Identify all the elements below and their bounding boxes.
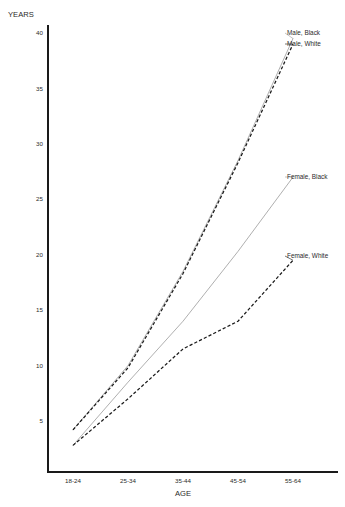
chart-container: 510152025303540 18-2425-3435-4445-5455-6… — [0, 0, 345, 507]
y-axis-ticks: 510152025303540 — [36, 29, 43, 424]
data-series — [73, 39, 293, 446]
x-tick-label: 55-64 — [285, 477, 301, 484]
x-tick-label: 45-54 — [230, 477, 246, 484]
y-tick-label: 30 — [36, 140, 43, 147]
x-tick-label: 25-34 — [120, 477, 136, 484]
y-tick-label: 40 — [36, 29, 43, 36]
x-tick-label: 35-44 — [175, 477, 191, 484]
y-tick-label: 20 — [36, 251, 43, 258]
series-line-male-white — [73, 44, 293, 430]
series-label: Male, Black — [287, 29, 321, 36]
y-tick-label: 15 — [36, 306, 43, 313]
line-chart: 510152025303540 18-2425-3435-4445-5455-6… — [0, 0, 345, 507]
x-axis-title: AGE — [175, 489, 191, 498]
series-label: Male, White — [287, 40, 321, 47]
series-line-female-white — [73, 260, 293, 445]
y-axis-title: YEARS — [8, 10, 34, 19]
axis-lines — [48, 25, 338, 472]
x-axis-ticks: 18-2425-3435-4445-5455-64 — [65, 477, 301, 484]
y-tick-label: 25 — [36, 195, 43, 202]
y-tick-label: 10 — [36, 362, 43, 369]
axes — [48, 25, 338, 472]
y-tick-label: 35 — [36, 85, 43, 92]
series-label: Female, Black — [287, 173, 328, 180]
x-tick-label: 18-24 — [65, 477, 81, 484]
label-leader-lines — [285, 33, 293, 260]
series-line-female-black — [73, 177, 293, 445]
series-line-male-black — [73, 39, 293, 430]
y-tick-label: 5 — [40, 417, 44, 424]
series-label: Female, White — [287, 252, 329, 259]
series-labels: Male, BlackMale, WhiteFemale, BlackFemal… — [287, 29, 329, 259]
